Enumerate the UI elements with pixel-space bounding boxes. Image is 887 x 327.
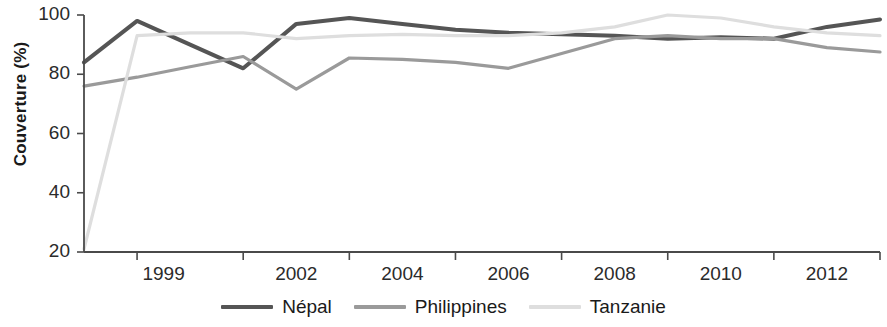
line-swatch-nepal (221, 305, 273, 309)
legend-item-tanzanie[interactable]: Tanzanie (529, 296, 666, 318)
plot-area (0, 0, 887, 327)
legend-label: Philippines (415, 296, 507, 318)
line-swatch-philippines (354, 305, 406, 308)
series-line-philippines (84, 36, 880, 89)
legend-label: Népal (282, 296, 332, 318)
legend-item-npal[interactable]: Népal (221, 296, 332, 318)
axis-lines (77, 15, 880, 260)
line-swatch-tanzanie (529, 305, 581, 308)
line-chart: Couverture (%) 10080604020 1999200220042… (0, 0, 887, 327)
chart-legend: NépalPhilippinesTanzanie (0, 296, 887, 318)
legend-item-philippines[interactable]: Philippines (354, 296, 507, 318)
series-lines (84, 15, 880, 249)
legend-label: Tanzanie (590, 296, 666, 318)
